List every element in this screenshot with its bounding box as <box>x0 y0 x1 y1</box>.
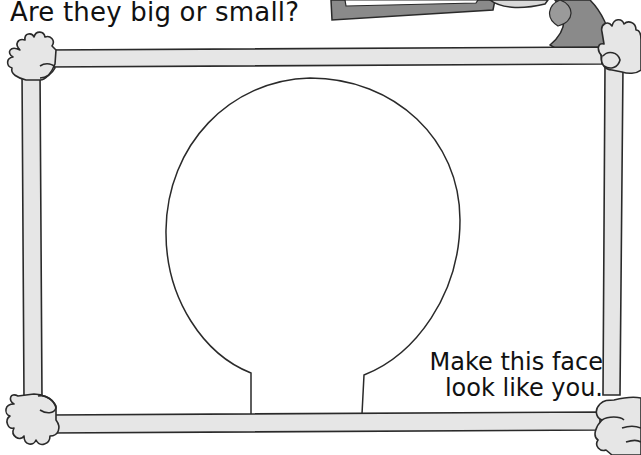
question-text: Are they big or small? <box>10 0 299 27</box>
face-outline <box>166 78 460 414</box>
hand-top-left-icon <box>8 32 56 80</box>
hand-top-right-icon <box>598 20 641 74</box>
frame-top-bar <box>45 47 602 67</box>
partial-figure-top-right <box>331 0 610 48</box>
frame-bottom-bar <box>50 412 600 433</box>
frame-right-bar <box>603 66 623 395</box>
caption-line-1: Make this face <box>430 349 603 375</box>
hand-bottom-left-icon <box>6 394 59 444</box>
caption-line-2: look like you. <box>430 375 603 401</box>
frame-left-bar <box>22 70 42 400</box>
instruction-caption: Make this face look like you. <box>430 349 603 401</box>
